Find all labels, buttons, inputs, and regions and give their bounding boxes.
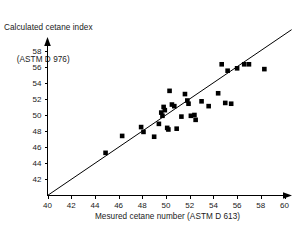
data-point-marker <box>186 101 191 106</box>
data-point-marker <box>242 62 247 67</box>
x-tick-label: 46 <box>114 201 123 210</box>
cetane-scatter-chart: Calculated cetane index (ASTM D 976) 424… <box>0 0 299 231</box>
x-tick-label: 42 <box>67 201 76 210</box>
y-tick-label: 46 <box>33 143 42 152</box>
data-point-marker <box>141 130 146 135</box>
data-point-marker <box>139 125 144 130</box>
data-point-marker <box>157 122 162 127</box>
y-tick-label: 54 <box>33 79 42 88</box>
x-tick-label: 52 <box>185 201 194 210</box>
y-axis-arrow-icon <box>44 37 51 46</box>
x-axis-ticks: 4042444648505254565860 <box>43 196 289 210</box>
data-point-marker <box>235 66 240 71</box>
data-point-marker <box>167 89 172 94</box>
data-point-marker <box>179 114 184 119</box>
data-point-marker <box>174 126 179 131</box>
y-tick-label: 56 <box>33 63 42 72</box>
data-point-marker <box>206 104 211 109</box>
data-point-marker <box>183 92 188 97</box>
x-axis-title: Mesured cetane number (ASTM D 613) <box>0 212 299 221</box>
data-point-marker <box>193 118 198 123</box>
x-tick-label: 54 <box>209 201 218 210</box>
x-tick-label: 56 <box>233 201 242 210</box>
data-point-marker <box>223 101 228 106</box>
x-tick-label: 48 <box>138 201 147 210</box>
y-axis <box>44 37 51 196</box>
data-point-marker <box>152 134 157 139</box>
data-point-marker <box>172 104 177 109</box>
x-tick-label: 40 <box>43 201 52 210</box>
y-tick-label: 58 <box>33 47 42 56</box>
data-point-marker <box>199 99 204 104</box>
data-point-marker <box>166 127 171 132</box>
data-point-marker <box>120 134 125 139</box>
y-axis-ticks: 424446485052545658 <box>33 47 48 185</box>
x-tick-label: 60 <box>280 201 289 210</box>
x-tick-label: 50 <box>162 201 171 210</box>
x-axis <box>48 192 293 199</box>
x-tick-label: 44 <box>90 201 99 210</box>
data-point-marker <box>192 113 197 118</box>
x-tick-label: 58 <box>256 201 265 210</box>
y-tick-label: 42 <box>33 175 42 184</box>
data-point-marker <box>160 114 165 119</box>
data-point-marker <box>163 108 168 113</box>
data-point-marker <box>247 62 252 67</box>
identity-reference-line <box>48 30 292 196</box>
data-point-marker <box>216 91 221 96</box>
data-point-marker <box>262 67 267 72</box>
data-point-marker <box>219 62 224 67</box>
x-axis-arrow-icon <box>283 192 292 199</box>
plot-area: 424446485052545658 404244464850525456586… <box>0 0 299 231</box>
data-point-marker <box>225 68 230 73</box>
data-point-marker <box>103 151 108 156</box>
y-tick-label: 44 <box>33 159 42 168</box>
y-tick-label: 52 <box>33 95 42 104</box>
data-point-marker <box>229 101 234 106</box>
y-tick-label: 48 <box>33 127 42 136</box>
y-tick-label: 50 <box>33 111 42 120</box>
